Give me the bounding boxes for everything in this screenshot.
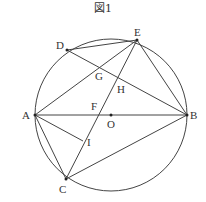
point-B <box>186 114 189 117</box>
segment-EC <box>66 40 137 179</box>
segment-DE <box>67 40 137 50</box>
label-H: H <box>117 83 125 95</box>
label-E: E <box>134 26 141 38</box>
label-F: F <box>91 100 97 112</box>
point-D <box>66 49 69 52</box>
label-B: B <box>190 109 197 121</box>
segment-AI <box>35 115 83 141</box>
point-O <box>110 114 113 117</box>
point-A <box>34 114 37 117</box>
segment-CB <box>66 115 187 179</box>
geometry-diagram: ABCDEGHFOI <box>0 0 206 202</box>
label-O: O <box>107 118 115 130</box>
label-A: A <box>22 109 30 121</box>
segment-EB <box>137 40 187 115</box>
label-D: D <box>56 39 64 51</box>
point-C <box>65 178 68 181</box>
label-G: G <box>95 70 103 82</box>
label-I: I <box>87 136 91 148</box>
point-E <box>136 39 139 42</box>
segment-AC <box>35 115 66 179</box>
segment-EA <box>35 40 137 115</box>
label-C: C <box>59 183 66 195</box>
